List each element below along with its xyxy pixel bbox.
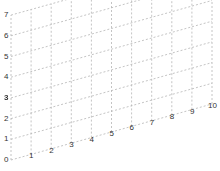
x-tick-label: 7 [150, 119, 154, 127]
x-tick-label: 3 [69, 141, 73, 149]
y-tick-label: 1 [4, 135, 8, 143]
grid-line-horizontal [11, 1, 212, 57]
x-tick-label: 9 [190, 108, 194, 116]
x-tick-label: 8 [170, 113, 174, 121]
y-tick-label: 7 [4, 11, 8, 19]
x-tick-label: 5 [110, 130, 114, 138]
y-tick-label: 5 [4, 53, 8, 61]
chart-plot-area [0, 0, 220, 171]
y-tick-label: 3 [4, 94, 8, 102]
x-tick-label: 4 [89, 136, 93, 144]
x-tick-label: 2 [49, 147, 53, 155]
grid-line-horizontal [11, 21, 212, 77]
x-tick-label: 10 [208, 102, 217, 110]
y-tick-label: 0 [4, 156, 8, 164]
x-tick-label: 6 [130, 124, 134, 132]
x-tick-label: 1 [29, 152, 33, 160]
y-tick-label: 2 [4, 115, 8, 123]
y-tick-label: 6 [4, 32, 8, 40]
y-tick-label: 4 [4, 73, 8, 81]
